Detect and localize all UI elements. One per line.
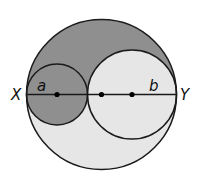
circles-diagram: X Y a b — [0, 0, 198, 183]
label-b: b — [149, 77, 159, 95]
label-y: Y — [180, 86, 191, 104]
label-x: X — [10, 86, 22, 104]
center-b-point — [129, 92, 134, 97]
center-a-point — [54, 92, 59, 97]
label-a: a — [37, 77, 46, 95]
center-big-point — [99, 92, 104, 97]
